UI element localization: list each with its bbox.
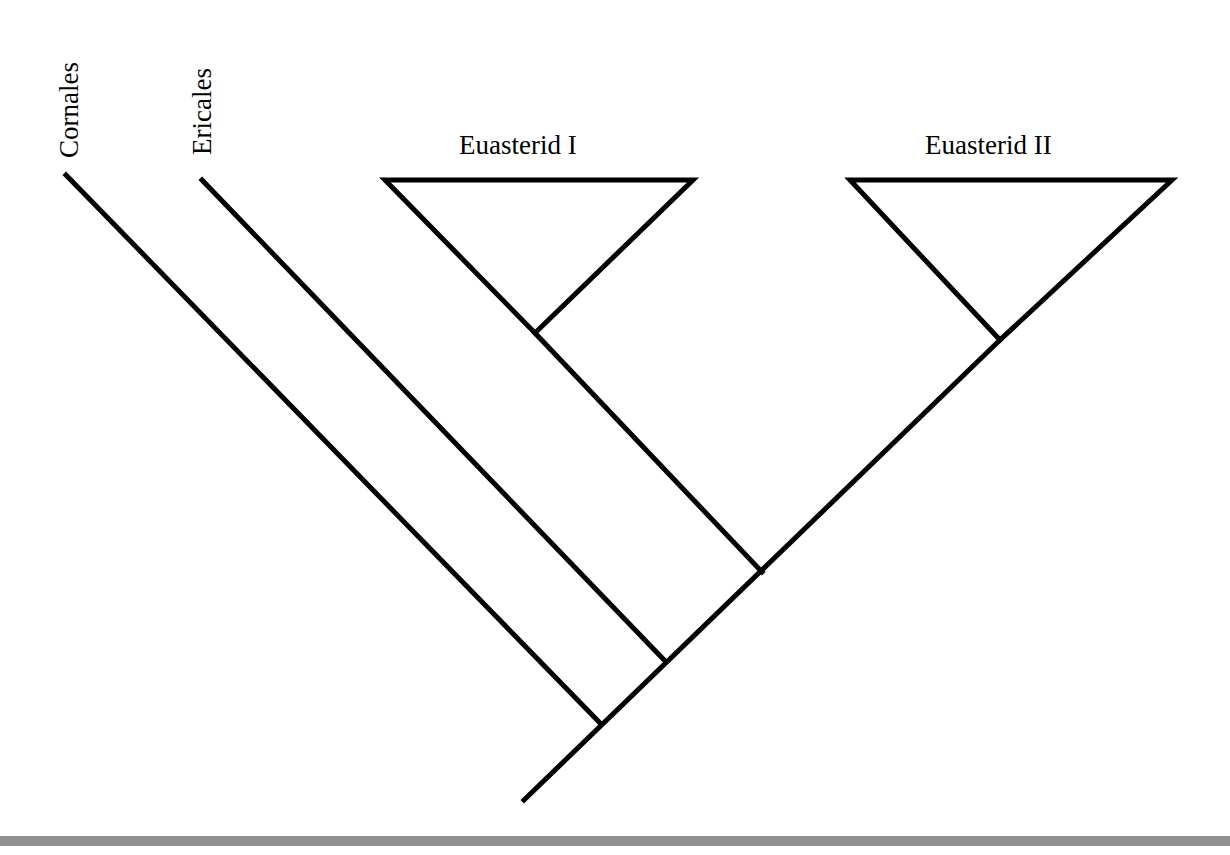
branch-cornales (66, 175, 599, 722)
taxon-label-euasterid-i: Euasterid I (459, 130, 577, 160)
clade-triangle-euasterid-i (385, 180, 693, 333)
branch-ericales (202, 180, 666, 662)
taxon-label-cornales: Cornales (54, 62, 84, 158)
taxon-label-euasterid-ii: Euasterid II (925, 130, 1052, 160)
footer-divider-bar (0, 836, 1230, 846)
branch-euasterid-i-stem (535, 333, 762, 572)
taxon-label-ericales: Ericales (187, 68, 217, 155)
cladogram-svg: Cornales Ericales Euasterid I Euasterid … (0, 0, 1230, 855)
cladogram-diagram: Cornales Ericales Euasterid I Euasterid … (0, 0, 1230, 855)
clade-triangle-euasterid-ii (850, 180, 1172, 340)
